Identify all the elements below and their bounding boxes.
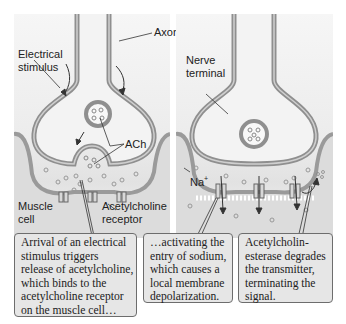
panel-sodium-entry-and-degradation: Nerve terminal Na+ xyxy=(176,14,333,238)
sodium-ion-label: Na+ xyxy=(190,172,208,189)
caption-degradation: Acetylcholin- esterase degrades the tran… xyxy=(238,233,333,303)
synapse-depolarization-illustration xyxy=(176,14,333,238)
caption-degradation-text: Acetylcholin- esterase degrades the tran… xyxy=(245,236,327,304)
sodium-symbol: Na xyxy=(190,176,204,188)
sodium-charge: + xyxy=(204,175,208,182)
caption-release-text: Arrival of an electrical stimulus trigge… xyxy=(21,236,131,318)
nerve-terminal-label: Nerve terminal xyxy=(186,54,225,80)
caption-sodium-entry: …activating the entry of sodium, which c… xyxy=(143,233,233,303)
caption-sodium-entry-text: …activating the entry of sodium, which c… xyxy=(150,236,227,304)
caption-release: Arrival of an electrical stimulus trigge… xyxy=(14,233,137,317)
